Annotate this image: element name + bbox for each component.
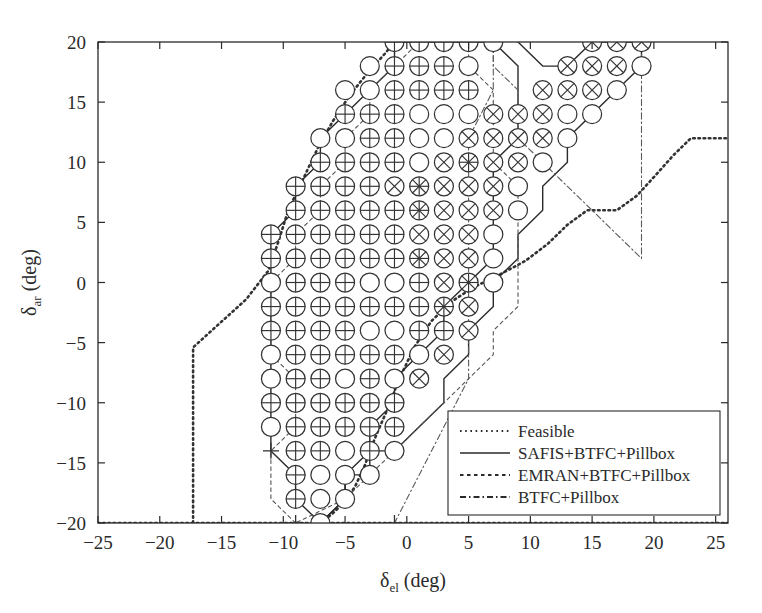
marker-x	[558, 57, 577, 76]
marker-x	[533, 129, 552, 148]
marker-p	[385, 105, 404, 124]
marker-x	[434, 153, 453, 172]
marker-x	[484, 129, 503, 148]
marker-x	[484, 177, 503, 196]
y-tick-label: −10	[56, 393, 86, 414]
legend-label[interactable]: SAFIS+BTFC+Pillbox	[518, 444, 676, 463]
marker-p	[385, 129, 404, 148]
marker-s	[410, 201, 429, 220]
marker-c	[410, 105, 429, 124]
marker-x	[459, 201, 478, 220]
marker-p	[385, 57, 404, 76]
marker-x	[484, 105, 503, 124]
marker-p	[434, 57, 453, 76]
marker-p	[286, 249, 305, 268]
marker-p	[286, 393, 305, 412]
marker-p	[311, 225, 330, 244]
marker-c	[385, 321, 404, 340]
marker-p	[360, 417, 379, 436]
marker-p	[360, 105, 379, 124]
marker-p	[360, 369, 379, 388]
marker-x	[459, 177, 478, 196]
marker-p	[410, 81, 429, 100]
marker-c	[410, 153, 429, 172]
marker-p	[336, 153, 355, 172]
marker-c	[459, 57, 478, 76]
marker-p	[261, 321, 280, 340]
marker-x	[434, 273, 453, 292]
marker-x	[509, 129, 528, 148]
marker-p	[336, 417, 355, 436]
marker-p	[286, 273, 305, 292]
marker-c	[360, 81, 379, 100]
marker-c	[558, 105, 577, 124]
marker-x	[410, 225, 429, 244]
marker-x	[509, 153, 528, 172]
marker-x	[385, 177, 404, 196]
marker-c	[385, 441, 404, 460]
marker-p	[311, 177, 330, 196]
marker-p	[385, 201, 404, 220]
marker-p	[261, 297, 280, 316]
marker-p	[311, 249, 330, 268]
x-tick-label: 20	[644, 532, 663, 553]
legend-label[interactable]: BTFC+Pillbox	[518, 488, 620, 507]
x-tick-label: 15	[583, 532, 602, 553]
marker-x	[484, 201, 503, 220]
marker-x	[459, 297, 478, 316]
marker-p	[311, 441, 330, 460]
marker-p	[459, 81, 478, 100]
marker-c	[261, 369, 280, 388]
marker-s	[410, 177, 429, 196]
marker-c	[261, 273, 280, 292]
marker-p	[385, 393, 404, 412]
marker-c	[311, 489, 330, 508]
plot-background	[0, 0, 762, 613]
marker-c	[583, 105, 602, 124]
marker-c	[336, 465, 355, 484]
marker-x	[484, 153, 503, 172]
y-tick-label: −15	[56, 453, 86, 474]
marker-p	[336, 105, 355, 124]
marker-c	[336, 489, 355, 508]
marker-p	[360, 297, 379, 316]
marker-p	[261, 393, 280, 412]
marker-p	[410, 321, 429, 340]
legend-label[interactable]: Feasible	[518, 422, 575, 441]
marker-x	[558, 81, 577, 100]
marker-p	[311, 297, 330, 316]
marker-p	[286, 489, 305, 508]
legend-box[interactable]: FeasibleSAFIS+BTFC+PillboxEMRAN+BTFC+Pil…	[448, 411, 720, 515]
marker-c	[459, 105, 478, 124]
marker-c	[385, 369, 404, 388]
y-tick-label: −5	[66, 333, 86, 354]
marker-c	[484, 273, 503, 292]
marker-p	[336, 225, 355, 244]
marker-c	[261, 345, 280, 364]
marker-p	[286, 297, 305, 316]
chart-figure: −25−20−15−10−50510152025−20−15−10−505101…	[0, 0, 762, 613]
marker-x	[607, 57, 626, 76]
x-tick-label: 0	[402, 532, 412, 553]
marker-x	[583, 57, 602, 76]
marker-p	[286, 441, 305, 460]
marker-p	[286, 177, 305, 196]
marker-x	[434, 201, 453, 220]
marker-p	[286, 369, 305, 388]
marker-p	[311, 345, 330, 364]
marker-p	[360, 441, 379, 460]
marker-p	[385, 249, 404, 268]
marker-c	[434, 105, 453, 124]
legend-label[interactable]: EMRAN+BTFC+Pillbox	[518, 466, 691, 485]
marker-p	[410, 273, 429, 292]
marker-c	[336, 369, 355, 388]
x-tick-label: 5	[464, 532, 474, 553]
marker-p	[410, 297, 429, 316]
marker-p	[385, 417, 404, 436]
marker-c	[607, 81, 626, 100]
x-tick-label: 10	[521, 532, 540, 553]
marker-x	[434, 345, 453, 364]
marker-x	[434, 177, 453, 196]
marker-c	[434, 129, 453, 148]
marker-p	[286, 201, 305, 220]
